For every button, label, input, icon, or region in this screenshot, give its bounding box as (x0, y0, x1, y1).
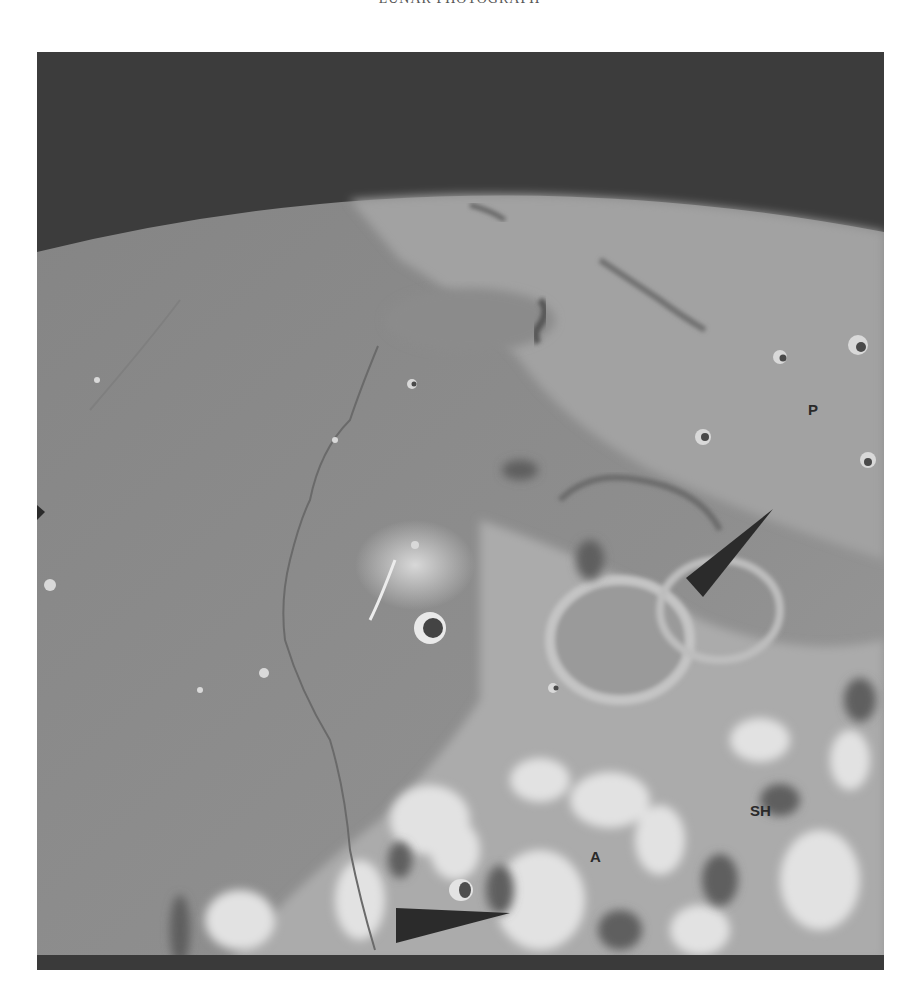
lunar-photograph: P SH A (37, 52, 884, 970)
label-p: P (808, 401, 818, 418)
label-sh: SH (750, 802, 771, 819)
page-header-clipped: LUNAR PHOTOGRAPH (0, 0, 919, 7)
label-a: A (590, 848, 601, 865)
bottom-band (37, 955, 884, 970)
